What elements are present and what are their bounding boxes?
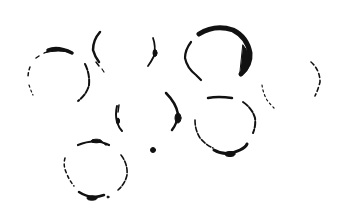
ring-top-right-bold — [185, 28, 250, 80]
ring-top-left — [28, 49, 89, 102]
ring-bottom-left — [64, 139, 127, 200]
ring-top-center — [93, 32, 157, 72]
stained-paper-image: Stained rings on white paper — [0, 0, 343, 224]
ring-center-right — [195, 97, 255, 157]
ink-dot — [151, 148, 156, 153]
ring-far-right-faint — [262, 62, 320, 108]
ring-middle — [100, 93, 181, 145]
ring-stains-illustration — [0, 0, 343, 224]
